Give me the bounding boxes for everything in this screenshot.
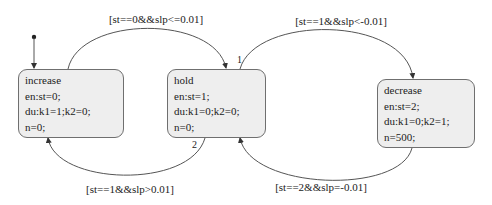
during-action: du:k1=1;k2=0;	[25, 104, 123, 120]
entry-action: en:st=1;	[174, 89, 265, 105]
transition-increase-to-hold[interactable]	[68, 28, 226, 69]
state-name: decrease	[384, 83, 474, 99]
entry-action: en:st=0;	[25, 89, 123, 105]
extra-action: n=0;	[25, 120, 123, 136]
transition-hold-to-increase[interactable]	[48, 138, 205, 175]
condition-decrease-to-hold: [st==2&&slp=-0.01]	[275, 181, 367, 193]
state-decrease[interactable]: decrease en:st=2; du:k1=0;k2=1; n=500;	[377, 79, 475, 148]
condition-hold-to-increase: [st==1&&slp>0.01]	[86, 183, 174, 195]
extra-action: n=0;	[174, 120, 265, 136]
during-action: du:k1=0;k2=1;	[384, 114, 474, 130]
entry-action: en:st=2;	[384, 99, 474, 115]
transition-order-2: 2	[192, 139, 197, 150]
state-name: increase	[25, 73, 123, 89]
transition-order-1: 1	[237, 54, 242, 65]
state-name: hold	[174, 73, 265, 89]
condition-hold-to-decrease: [st==1&&slp<-0.01]	[295, 15, 387, 27]
state-hold[interactable]: hold en:st=1; du:k1=0;k2=0; n=0;	[167, 69, 266, 138]
state-increase[interactable]: increase en:st=0; du:k1=1;k2=0; n=0;	[18, 69, 124, 138]
transition-hold-to-decrease[interactable]	[240, 30, 413, 78]
during-action: du:k1=0;k2=0;	[174, 104, 265, 120]
extra-action: n=500;	[384, 130, 474, 146]
condition-increase-to-hold: [st==0&&slp<=0.01]	[109, 13, 203, 25]
